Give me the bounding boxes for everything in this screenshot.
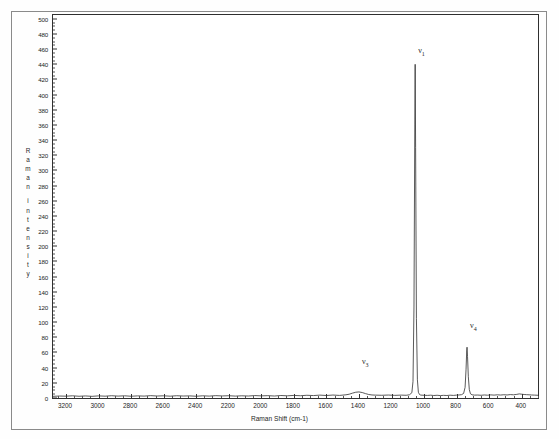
- x-axis-minor-tick: [82, 396, 83, 398]
- y-axis-tick: [53, 109, 57, 110]
- x-axis-minor-tick: [188, 396, 189, 398]
- y-axis-tick: [53, 170, 57, 171]
- y-axis-tick: [53, 246, 57, 247]
- y-axis-tick-label: 420: [38, 76, 50, 83]
- x-axis-tick: [196, 394, 197, 398]
- y-axis-tick-label: 120: [38, 303, 50, 310]
- y-axis-minor-tick: [53, 269, 55, 270]
- y-axis-minor-tick: [53, 151, 55, 152]
- x-axis-minor-tick: [90, 396, 91, 398]
- x-axis-minor-tick: [147, 396, 148, 398]
- y-axis-tick-label: 280: [38, 182, 50, 189]
- x-axis-minor-tick: [302, 396, 303, 398]
- y-axis-minor-tick: [53, 299, 55, 300]
- y-axis-minor-tick: [53, 30, 55, 31]
- y-axis-tick: [53, 79, 57, 80]
- y-axis-tick: [53, 185, 57, 186]
- y-axis-minor-tick: [53, 341, 55, 342]
- y-axis-minor-tick: [53, 333, 55, 334]
- y-axis-tick: [53, 231, 57, 232]
- y-axis-minor-tick: [53, 212, 55, 213]
- y-axis-minor-tick: [53, 102, 55, 103]
- y-axis-tick-label: 140: [38, 288, 50, 295]
- y-axis-minor-tick: [53, 386, 55, 387]
- y-axis-tick-label: 100: [38, 319, 50, 326]
- y-axis-minor-tick: [53, 318, 55, 319]
- x-axis-minor-tick: [269, 396, 270, 398]
- x-axis-tick-label: 1000: [416, 402, 430, 409]
- spectrum-curve: [53, 15, 538, 398]
- y-axis-tick-label: 20: [42, 379, 50, 386]
- x-axis-minor-tick: [505, 396, 506, 398]
- x-axis-minor-tick: [74, 396, 75, 398]
- y-axis-minor-tick: [53, 162, 55, 163]
- x-axis-minor-tick: [123, 396, 124, 398]
- y-axis-minor-tick: [53, 143, 55, 144]
- y-axis-minor-tick: [53, 238, 55, 239]
- y-axis-minor-tick: [53, 223, 55, 224]
- x-axis-minor-tick: [473, 396, 474, 398]
- y-axis-tick-label: 40: [42, 364, 50, 371]
- y-axis-minor-tick: [53, 375, 55, 376]
- y-axis-tick: [53, 33, 57, 34]
- y-axis-minor-tick: [53, 75, 55, 76]
- y-axis-minor-tick: [53, 250, 55, 251]
- y-axis-minor-tick: [53, 265, 55, 266]
- y-axis-minor-tick: [53, 136, 55, 137]
- y-axis-tick: [53, 18, 57, 19]
- y-axis-minor-tick: [53, 280, 55, 281]
- x-axis-tick-label: 2600: [156, 402, 170, 409]
- x-axis-minor-tick: [286, 396, 287, 398]
- x-axis-tick: [66, 394, 67, 398]
- y-axis-tick-label: 460: [38, 46, 50, 53]
- x-axis-tick: [229, 394, 230, 398]
- x-axis-tick-label: 1600: [318, 402, 332, 409]
- y-axis-minor-tick: [53, 325, 55, 326]
- y-axis-minor-tick: [53, 71, 55, 72]
- y-axis-minor-tick: [53, 253, 55, 254]
- x-axis-minor-tick: [204, 396, 205, 398]
- x-axis-minor-tick: [530, 396, 531, 398]
- x-axis-tick: [359, 394, 360, 398]
- y-axis-minor-tick: [53, 121, 55, 122]
- x-axis-tick-label: 2400: [188, 402, 202, 409]
- x-axis-tick-label: 2000: [253, 402, 267, 409]
- y-axis-minor-tick: [53, 45, 55, 46]
- y-axis-minor-tick: [53, 356, 55, 357]
- x-axis-minor-tick: [139, 396, 140, 398]
- x-axis-tick-label: 1200: [383, 402, 397, 409]
- y-axis-minor-tick: [53, 360, 55, 361]
- x-axis-minor-tick: [253, 396, 254, 398]
- x-axis-tick: [489, 394, 490, 398]
- x-axis-minor-tick: [465, 396, 466, 398]
- y-axis-tick: [53, 352, 57, 353]
- y-axis-minor-tick: [53, 310, 55, 311]
- y-axis-tick: [53, 49, 57, 50]
- y-axis-tick: [53, 94, 57, 95]
- x-axis-minor-tick: [440, 396, 441, 398]
- x-axis-minor-tick: [221, 396, 222, 398]
- y-axis-minor-tick: [53, 113, 55, 114]
- y-axis-tick: [53, 215, 57, 216]
- x-axis-tick-label: 3200: [58, 402, 72, 409]
- y-axis-tick-label: 160: [38, 273, 50, 280]
- y-axis-tick-label: 360: [38, 121, 50, 128]
- y-axis-minor-tick: [53, 363, 55, 364]
- y-axis-tick: [53, 140, 57, 141]
- y-axis-minor-tick: [53, 166, 55, 167]
- y-axis-minor-tick: [53, 344, 55, 345]
- y-axis-minor-tick: [53, 128, 55, 129]
- x-axis-minor-tick: [538, 396, 539, 398]
- y-axis-tick-label: 220: [38, 228, 50, 235]
- y-axis-minor-tick: [53, 147, 55, 148]
- y-axis-tick: [53, 155, 57, 156]
- x-axis-minor-tick: [245, 396, 246, 398]
- x-axis-minor-tick: [156, 396, 157, 398]
- y-axis-tick-label: 240: [38, 212, 50, 219]
- x-axis-minor-tick: [310, 396, 311, 398]
- x-axis-minor-tick: [375, 396, 376, 398]
- y-axis-tick: [53, 200, 57, 201]
- spectrum-trace: [53, 64, 538, 396]
- x-axis-minor-tick: [318, 396, 319, 398]
- x-axis-minor-tick: [343, 396, 344, 398]
